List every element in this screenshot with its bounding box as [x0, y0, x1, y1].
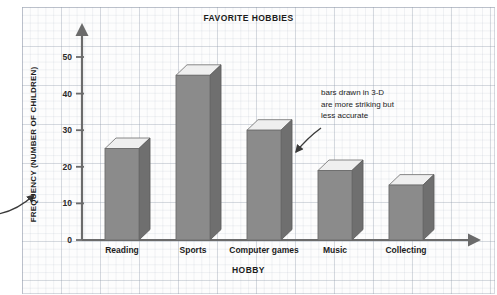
bar-music [318, 160, 363, 240]
y-tick-label-40: 40 [50, 89, 72, 99]
annotation-arrow-icon [296, 128, 321, 152]
annotation-line-1: bars drawn in 3-D [321, 87, 441, 99]
bar-reading [105, 138, 150, 240]
y-tick-label-30: 30 [50, 125, 72, 135]
x-label-reading: Reading [82, 245, 162, 255]
y-tick-label-0: 0 [50, 235, 72, 245]
bar-computer-games [247, 120, 292, 240]
chart-screenshot: FAVORITE HOBBIES FREQUENCY (NUMBER OF CH… [0, 0, 497, 295]
x-label-music: Music [295, 245, 375, 255]
bar-collecting [389, 175, 434, 240]
y-tick-label-10: 10 [50, 198, 72, 208]
y-axis-title: FREQUENCY (NUMBER OF CHILDREN) [29, 50, 38, 240]
x-label-collecting: Collecting [366, 245, 446, 255]
y-tick-label-20: 20 [50, 162, 72, 172]
y-tick-label-50: 50 [50, 52, 72, 62]
bar-sports [176, 65, 221, 240]
chart-title: FAVORITE HOBBIES [0, 13, 497, 23]
annotation-line-3: less accurate [321, 110, 441, 122]
annotation-line-2: are more striking but [321, 99, 441, 111]
x-axis-title: HOBBY [0, 265, 497, 275]
annotation-note: bars drawn in 3-D are more striking but … [321, 87, 441, 122]
